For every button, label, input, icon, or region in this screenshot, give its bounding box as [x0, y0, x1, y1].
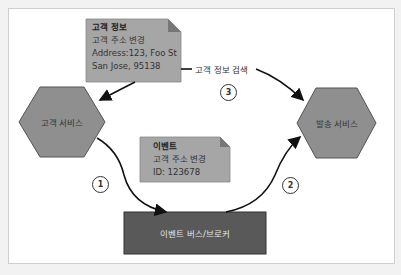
- note-to-customer-service-arrow: [100, 82, 135, 100]
- event-note-line1: 고객 주소 변경: [153, 153, 206, 166]
- step-3-badge: 3: [220, 84, 237, 101]
- customer-info-note-line3: San Jose, 95138: [92, 60, 177, 73]
- shipping-service-label: 발송 서비스: [304, 117, 370, 129]
- event-note-line2: ID: 123678: [153, 166, 206, 179]
- step-2-badge: 2: [282, 177, 299, 194]
- event-bus-label: 이벤트 버스/브로커: [124, 227, 266, 239]
- event-note: 이벤트 고객 주소 변경 ID: 123678: [153, 140, 206, 179]
- bus-to-shipping-arrow: [226, 137, 300, 212]
- customer-info-note: 고객 정보 고객 주소 변경 Address:123, Foo St San J…: [92, 21, 177, 73]
- lookup-to-shipping-arrow: [256, 69, 303, 100]
- step-1-badge: 1: [92, 176, 109, 193]
- customer-service-label: 고객 서비스: [30, 116, 94, 128]
- customer-info-note-title: 고객 정보: [92, 21, 177, 34]
- customer-info-note-line2: Address:123, Foo St: [92, 47, 177, 60]
- event-note-title: 이벤트: [153, 140, 206, 153]
- customer-info-note-line1: 고객 주소 변경: [92, 34, 177, 47]
- lookup-edge-label: 고객 정보 검색: [193, 63, 250, 75]
